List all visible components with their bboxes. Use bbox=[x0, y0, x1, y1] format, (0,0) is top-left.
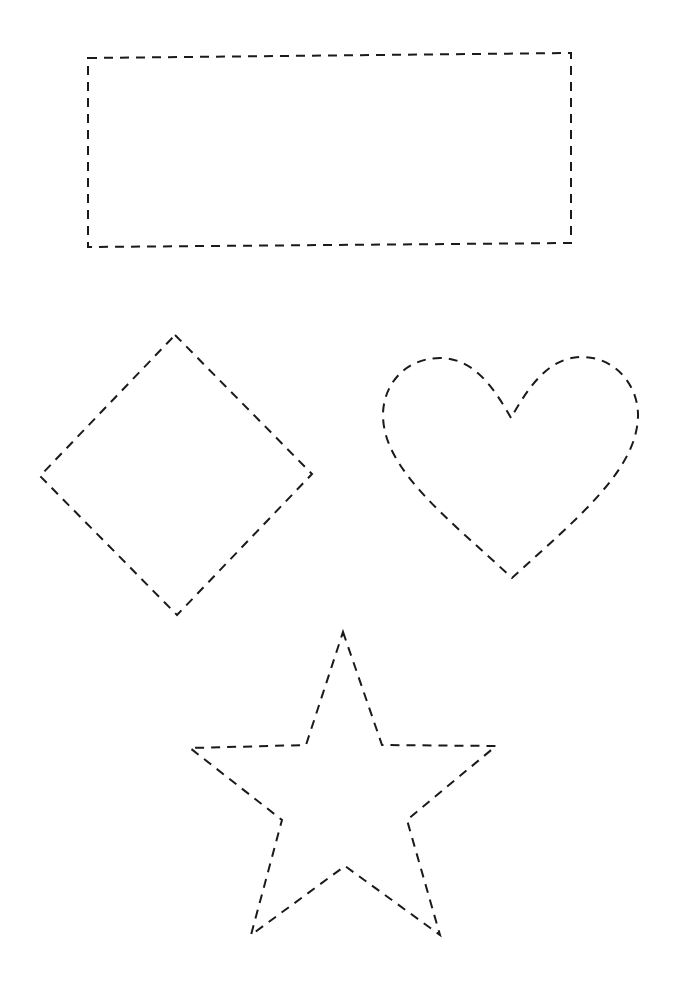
shapes-canvas bbox=[0, 0, 684, 1000]
rectangle-outline bbox=[88, 53, 571, 247]
diamond-outline bbox=[40, 335, 312, 615]
worksheet-page: Dashed-outline tracing shapes bbox=[0, 0, 684, 1000]
rectangle-shape bbox=[88, 53, 571, 247]
heart-shape bbox=[383, 357, 638, 578]
star-outline bbox=[190, 632, 496, 935]
diamond-shape bbox=[40, 335, 312, 615]
heart-outline bbox=[383, 357, 638, 578]
star-shape bbox=[190, 632, 496, 935]
